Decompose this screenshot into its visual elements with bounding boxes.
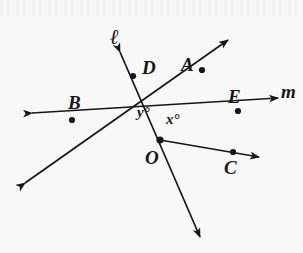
- point-label-a: A: [181, 55, 194, 74]
- line-label-m: m: [281, 82, 296, 101]
- vertex-label-o: O: [145, 148, 159, 167]
- line-label-ell: ℓ: [110, 26, 119, 47]
- point-label-c: C: [224, 158, 237, 177]
- point-dot-e: [235, 108, 241, 114]
- point-label-b: B: [68, 93, 81, 112]
- geometry-figure: A B C D E O ℓ m y° x°: [0, 0, 303, 253]
- point-dot-a: [199, 67, 205, 73]
- point-label-d: D: [142, 58, 156, 77]
- figure-canvas: [0, 0, 303, 253]
- ray-o-to-c: [160, 140, 259, 157]
- point-dot-b: [69, 117, 75, 123]
- point-dot-c: [230, 149, 236, 155]
- vertex-dot-o: [156, 136, 163, 143]
- angle-label-y: y°: [137, 105, 150, 120]
- point-dot-d: [130, 73, 136, 79]
- angle-label-x: x°: [166, 112, 180, 127]
- point-label-e: E: [228, 87, 241, 106]
- point-dots-group: [69, 67, 241, 155]
